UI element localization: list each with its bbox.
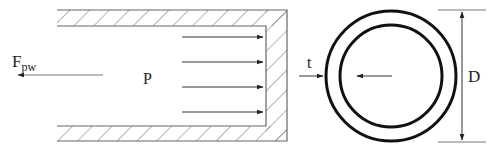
pressure-vessel-diagram: Fpw P t D — [0, 0, 497, 154]
top-wall-hatch — [57, 10, 287, 26]
diameter-dimension: D — [438, 10, 486, 142]
force-label: Fpw — [12, 52, 36, 74]
bottom-wall-hatch — [57, 126, 287, 141]
thickness-label: t — [307, 54, 312, 71]
diameter-label: D — [468, 67, 480, 86]
pressure-label: P — [143, 70, 152, 87]
cross-section — [326, 11, 456, 141]
end-cap-hatch — [266, 10, 287, 141]
